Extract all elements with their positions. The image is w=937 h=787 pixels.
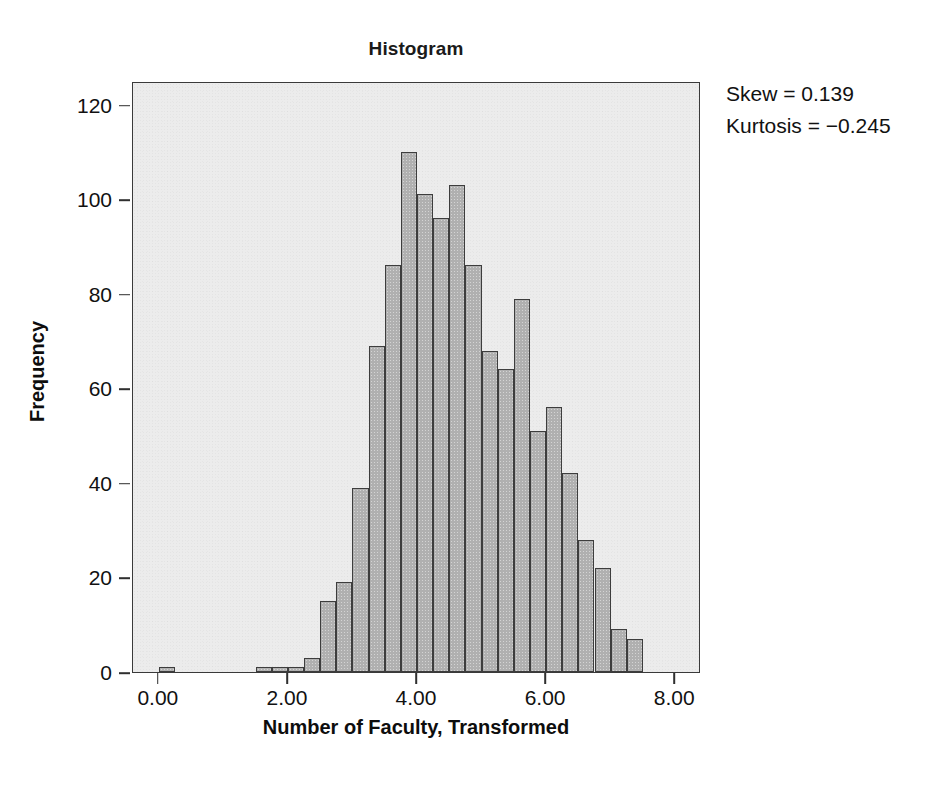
histogram-bar bbox=[449, 185, 465, 672]
histogram-bar bbox=[546, 407, 562, 672]
x-axis-tick-label: 6.00 bbox=[525, 686, 566, 710]
histogram-bar bbox=[627, 639, 643, 672]
y-axis-tick-mark bbox=[119, 294, 130, 296]
x-axis-tick-label: 8.00 bbox=[654, 686, 695, 710]
histogram-bar bbox=[498, 369, 514, 672]
histogram-bar bbox=[562, 473, 578, 672]
x-axis-tick-mark bbox=[544, 673, 546, 684]
y-axis-title: Frequency bbox=[26, 272, 49, 472]
x-axis-title: Number of Faculty, Transformed bbox=[132, 716, 700, 739]
y-axis-tick-label: 80 bbox=[89, 283, 112, 307]
histogram-bar bbox=[159, 667, 175, 672]
histogram-bar bbox=[482, 351, 498, 673]
statistics-annotations: Skew = 0.139 Kurtosis = −0.245 bbox=[726, 78, 891, 142]
histogram-bar bbox=[369, 346, 385, 672]
y-axis-tick-label: 60 bbox=[89, 377, 112, 401]
histogram-bar bbox=[272, 667, 288, 672]
histogram-bar bbox=[514, 299, 530, 673]
histogram-bar bbox=[433, 218, 449, 672]
histogram-bar bbox=[578, 540, 594, 672]
plot-area bbox=[132, 82, 700, 673]
histogram-bar bbox=[336, 582, 352, 672]
kurtosis-annotation: Kurtosis = −0.245 bbox=[726, 110, 891, 142]
y-axis-tick-mark bbox=[119, 672, 130, 674]
histogram-bar bbox=[417, 194, 433, 672]
histogram-bar bbox=[288, 667, 304, 672]
y-axis-tick-label: 120 bbox=[77, 94, 112, 118]
histogram-bar bbox=[595, 568, 611, 672]
histogram-bar bbox=[465, 265, 481, 672]
y-axis-tick-label: 40 bbox=[89, 472, 112, 496]
y-axis-tick-labels: 020406080100120 bbox=[0, 0, 112, 787]
y-axis-tick-mark bbox=[119, 105, 130, 107]
x-axis-tick-label: 0.00 bbox=[137, 686, 178, 710]
x-axis-tick-label: 2.00 bbox=[266, 686, 307, 710]
y-axis-tick-label: 20 bbox=[89, 566, 112, 590]
histogram-bar bbox=[304, 658, 320, 672]
y-axis-tick-mark bbox=[119, 199, 130, 201]
histogram-figure: Histogram 020406080100120 0.002.004.006.… bbox=[0, 0, 937, 787]
y-axis-tick-label: 0 bbox=[100, 661, 112, 685]
histogram-bar bbox=[401, 152, 417, 672]
histogram-bar bbox=[320, 601, 336, 672]
x-axis-tick-mark bbox=[157, 673, 159, 684]
histogram-bar bbox=[352, 488, 368, 672]
histogram-bar bbox=[530, 431, 546, 672]
histogram-bar bbox=[611, 629, 627, 672]
chart-title: Histogram bbox=[132, 38, 700, 60]
x-axis-tick-mark bbox=[415, 673, 417, 684]
y-axis-tick-mark bbox=[119, 483, 130, 485]
y-axis-tick-mark bbox=[119, 389, 130, 391]
histogram-bar bbox=[256, 667, 272, 672]
histogram-bars bbox=[133, 83, 699, 672]
histogram-bar bbox=[385, 265, 401, 672]
skew-annotation: Skew = 0.139 bbox=[726, 78, 891, 110]
x-axis-tick-label: 4.00 bbox=[396, 686, 437, 710]
x-axis-tick-mark bbox=[673, 673, 675, 684]
y-axis-tick-label: 100 bbox=[77, 188, 112, 212]
y-axis-tick-mark bbox=[119, 578, 130, 580]
x-axis-tick-mark bbox=[286, 673, 288, 684]
